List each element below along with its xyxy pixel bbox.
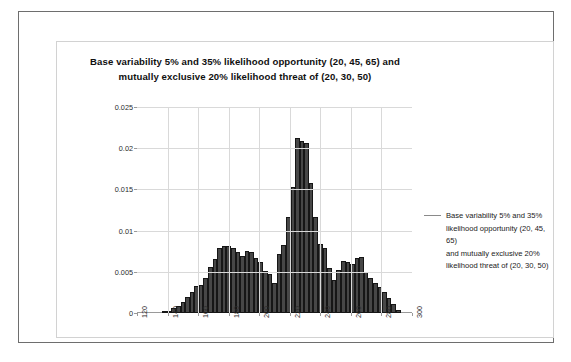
x-axis-tick-label: 200 [262, 306, 271, 318]
x-axis-tick-mark [198, 313, 199, 316]
x-axis-tick-mark [412, 313, 413, 316]
x-axis-tick-label: 300 [415, 306, 424, 318]
x-axis-tick-mark [381, 313, 382, 316]
x-axis-tick-mark [168, 313, 169, 316]
x-gridline [290, 107, 291, 313]
legend-label-line: and mutually exclusive 20% [446, 248, 552, 261]
x-gridline [259, 107, 260, 313]
x-axis-tick-label: 180 [232, 306, 241, 318]
y-gridline [137, 148, 412, 149]
x-axis-tick-label: 280 [384, 306, 393, 318]
x-axis-tick-mark [290, 313, 291, 316]
x-axis-tick-label: 220 [293, 306, 302, 318]
legend-entry[interactable]: Base variability 5% and 35%likelihood op… [424, 210, 552, 273]
y-axis-tick-label: 0.02 [99, 144, 133, 153]
legend-label-line: Base variability 5% and 35% [446, 210, 552, 223]
x-gridline [229, 107, 230, 313]
x-axis-tick-mark [229, 313, 230, 316]
y-gridline [137, 189, 412, 190]
y-axis-tick-label: 0.005 [99, 267, 133, 276]
x-axis-tick-mark [351, 313, 352, 316]
x-axis-tick-label: 120 [140, 306, 149, 318]
x-axis-tick-mark [137, 313, 138, 316]
legend-label-line: likelihood threat of (20, 30, 50) [446, 260, 552, 273]
y-axis-tick-label: 0 [99, 309, 133, 318]
x-axis-tick-label: 260 [354, 306, 363, 318]
x-axis-tick-mark [259, 313, 260, 316]
screenshot-root: Base variability 5% and 35% likelihood o… [0, 0, 571, 362]
y-axis-tick-mark [134, 231, 137, 232]
y-gridline [137, 231, 412, 232]
chart-title-line-1: Base variability 5% and 35% likelihood o… [75, 55, 415, 70]
y-gridline [137, 107, 412, 108]
document-frame: Base variability 5% and 35% likelihood o… [18, 11, 554, 343]
chart-legend[interactable]: Base variability 5% and 35%likelihood op… [424, 210, 552, 273]
x-gridline [198, 107, 199, 313]
legend-label-line: likelihood opportunity (20, 45, 65) [446, 223, 552, 248]
y-gridline [137, 272, 412, 273]
plot-area[interactable] [137, 107, 412, 313]
x-axis-tick-label: 140 [171, 306, 180, 318]
x-axis-tick-label: 160 [201, 306, 210, 318]
x-gridline [351, 107, 352, 313]
y-axis-tick-label: 0.01 [99, 226, 133, 235]
histogram-bar[interactable] [396, 310, 401, 313]
x-axis-tick-mark [320, 313, 321, 316]
chart-title: Base variability 5% and 35% likelihood o… [75, 55, 415, 85]
plot-wrapper: 00.0050.010.0150.020.0251201401601802002… [100, 103, 420, 343]
y-axis-tick-mark [134, 148, 137, 149]
x-gridline [320, 107, 321, 313]
y-axis-tick-mark [134, 189, 137, 190]
legend-entry-label: Base variability 5% and 35%likelihood op… [446, 210, 552, 273]
chart-title-line-2: mutually exclusive 20% likelihood threat… [75, 70, 415, 85]
x-gridline [381, 107, 382, 313]
y-axis-tick-mark [134, 107, 137, 108]
y-axis-tick-label: 0.025 [99, 103, 133, 112]
chart-object-frame[interactable]: Base variability 5% and 35% likelihood o… [56, 41, 554, 338]
y-axis-tick-mark [134, 272, 137, 273]
x-gridline [168, 107, 169, 313]
legend-line-swatch [424, 215, 441, 216]
y-axis-tick-label: 0.015 [99, 185, 133, 194]
x-axis-tick-label: 240 [323, 306, 332, 318]
